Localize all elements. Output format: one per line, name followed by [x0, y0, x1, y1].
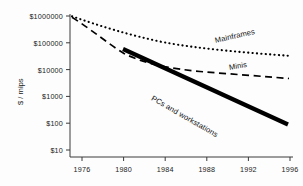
y-tick-label-100000: $100000	[0, 38, 63, 47]
series-line-mainframes	[72, 16, 289, 56]
x-tick-label-1988: 1988	[198, 165, 215, 174]
y-tick-label-1000: $1000	[0, 92, 63, 101]
y-tick-label-100: $100	[0, 119, 63, 128]
y-tick-label-10: $10	[0, 146, 63, 155]
y-axis-ticks	[66, 16, 70, 150]
x-tick-label-1980: 1980	[115, 165, 132, 174]
x-tick-label-1984: 1984	[157, 165, 174, 174]
x-axis-ticks	[82, 157, 290, 161]
x-tick-label-1996: 1996	[282, 165, 299, 174]
chart-figure: $ / mips $1000000 $100000 $10000 $1000 $…	[0, 0, 303, 186]
series-line-pcs-and-workstations	[123, 49, 288, 125]
x-tick-label-1992: 1992	[240, 165, 257, 174]
x-tick-label-1976: 1976	[74, 165, 91, 174]
y-tick-label-1000000: $1000000	[0, 12, 63, 21]
y-tick-label-10000: $10000	[0, 65, 63, 74]
series-line-minis	[72, 17, 289, 78]
